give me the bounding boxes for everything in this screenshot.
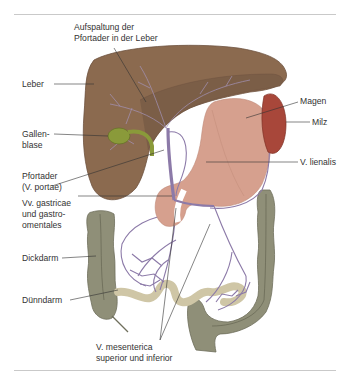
label-milz: Milz (312, 117, 327, 128)
label-pfortader: Pfortader (V. portae) (22, 171, 62, 193)
label-duenndarm: Dünndarm (22, 295, 62, 306)
spleen-illustration (262, 94, 286, 154)
label-v-lienalis: V. lienalis (300, 157, 336, 168)
label-leber: Leber (22, 79, 44, 90)
label-gallenblase: Gallen- blase (22, 129, 50, 151)
label-aufspaltung-der-pfortader: Aufspaltung der Pfortader in der Leber (74, 22, 158, 44)
label-dickdarm: Dickdarm (22, 253, 58, 264)
label-vv-gastricae: Vv. gastricae und gastro- omentales (22, 198, 71, 231)
label-v-mesenterica: V. mesenterica superior und inferior (96, 342, 172, 364)
label-magen: Magen (300, 96, 326, 107)
